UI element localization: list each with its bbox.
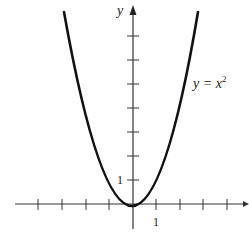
x-tick-label-1: 1 bbox=[153, 215, 159, 229]
x-axis-arrow-icon bbox=[243, 201, 249, 207]
parabola-chart: y 1 1 y = x2 bbox=[0, 0, 249, 235]
curve-label: y = x2 bbox=[191, 74, 226, 91]
curve-label-exponent: 2 bbox=[222, 74, 227, 84]
curve-label-text: y = x bbox=[191, 76, 223, 91]
y-axis-label: y bbox=[115, 3, 124, 18]
y-axis-arrow-icon bbox=[130, 5, 137, 15]
y-tick-label-1: 1 bbox=[117, 173, 123, 187]
parabola-curve bbox=[64, 12, 198, 206]
